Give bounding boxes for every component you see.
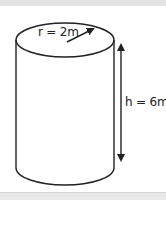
cylinder-bottom-arc bbox=[16, 168, 114, 185]
bottom-border-strip bbox=[0, 192, 166, 200]
height-label: h = 6m bbox=[125, 95, 166, 109]
radius-label: r = 2m bbox=[38, 25, 79, 39]
